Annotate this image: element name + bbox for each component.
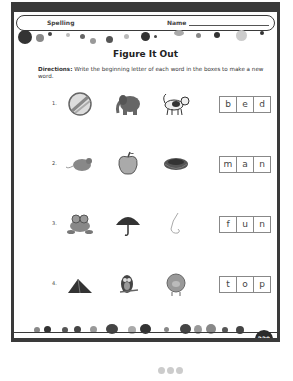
letter-box[interactable]: f: [220, 217, 237, 232]
nose-icon: [162, 211, 190, 237]
subject-label: Spelling: [47, 19, 74, 26]
tent-icon: [66, 271, 94, 297]
page-number-badge: 229: [255, 330, 273, 338]
mouse-icon: [66, 151, 94, 177]
letter-box[interactable]: e: [237, 97, 254, 112]
row-number: 4.: [52, 280, 57, 286]
answer-boxes: m a n: [219, 156, 271, 173]
exercise-row-2: 2. m a n: [14, 149, 277, 179]
top-border: [14, 6, 277, 12]
decorative-dots-bottom: [14, 324, 277, 332]
letter-box[interactable]: b: [220, 97, 237, 112]
umbrella-icon: [114, 211, 142, 237]
letter-box[interactable]: d: [254, 97, 270, 112]
name-label: Name: [167, 19, 186, 26]
frog-icon: [66, 211, 94, 237]
row-number: 2.: [52, 160, 57, 166]
elephant-icon: [114, 91, 142, 117]
letter-box[interactable]: m: [220, 157, 237, 172]
letter-box[interactable]: a: [237, 157, 254, 172]
pig-icon: [162, 271, 190, 297]
nest-icon: [162, 151, 190, 177]
apple-icon: [114, 151, 142, 177]
header-bar: Spelling Name: [16, 15, 275, 31]
worksheet-page: Spelling Name Figure It Out Directions: …: [14, 6, 277, 338]
answer-boxes: b e d: [219, 96, 271, 113]
decorative-dots-below: [158, 367, 183, 374]
letter-box[interactable]: n: [254, 217, 270, 232]
exercise-row-4: 4. t o p: [14, 269, 277, 299]
letter-box[interactable]: p: [254, 277, 270, 292]
directions-text: Write the beginning letter of each word …: [38, 66, 263, 79]
owl-icon: [114, 271, 142, 297]
page-title: Figure It Out: [14, 49, 277, 59]
decorative-dots-top: [14, 30, 277, 48]
dog-icon: [162, 91, 190, 117]
letter-box[interactable]: o: [237, 277, 254, 292]
answer-boxes: t o p: [219, 276, 271, 293]
exercise-row-1: 1. b e d: [14, 89, 277, 119]
directions-label: Directions:: [38, 66, 72, 72]
letter-box[interactable]: t: [220, 277, 237, 292]
name-field[interactable]: [189, 25, 269, 26]
answer-boxes: f u n: [219, 216, 271, 233]
worksheet-frame: Spelling Name Figure It Out Directions: …: [11, 2, 280, 342]
directions: Directions: Write the beginning letter o…: [38, 66, 274, 80]
exercise-row-3: 3. f u n: [14, 209, 277, 239]
letter-box[interactable]: u: [237, 217, 254, 232]
row-number: 1.: [52, 100, 57, 106]
ball-icon: [66, 91, 94, 117]
footer-bar: Crazy Big Book of Second Grade 229: [14, 332, 277, 338]
row-number: 3.: [52, 220, 57, 226]
letter-box[interactable]: n: [254, 157, 270, 172]
